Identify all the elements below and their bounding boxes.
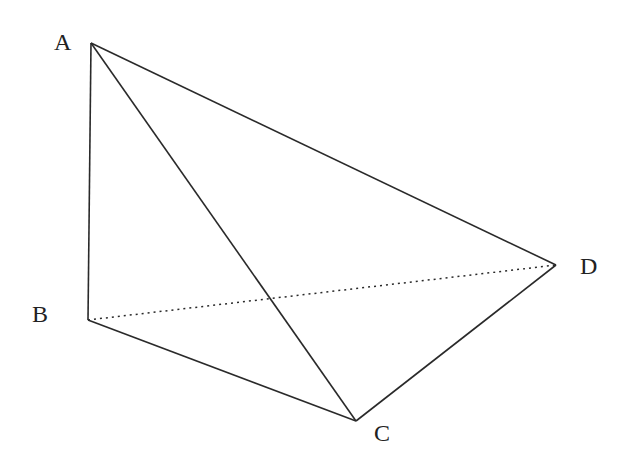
edge-ab	[88, 43, 91, 320]
edge-cd	[356, 265, 556, 421]
edge-bd-hidden	[88, 265, 556, 320]
edge-ac	[91, 43, 356, 421]
vertex-label-d: D	[580, 253, 597, 279]
edge-ad	[91, 43, 556, 265]
vertex-label-c: C	[374, 420, 390, 446]
vertex-label-b: B	[32, 301, 48, 327]
edge-bc	[88, 320, 356, 421]
tetrahedron-diagram: A B C D	[0, 0, 627, 463]
vertex-label-a: A	[54, 29, 72, 55]
